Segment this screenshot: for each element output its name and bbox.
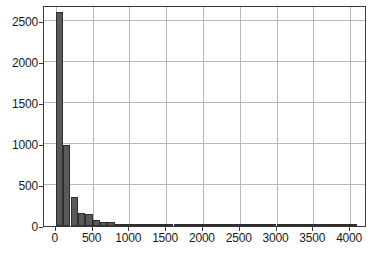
- histogram-figure: 05001000150020002500300035004000 0500100…: [0, 0, 377, 258]
- histogram-bar: [210, 224, 217, 226]
- histogram-bar: [254, 224, 261, 226]
- x-tick-label: 1000: [115, 231, 141, 245]
- y-tick: [39, 22, 43, 23]
- histogram-bar: [159, 224, 166, 226]
- histogram-bar: [335, 224, 342, 226]
- histogram-bar: [350, 224, 357, 226]
- histogram-bar: [78, 213, 85, 226]
- histogram-bar: [151, 224, 158, 226]
- histogram-bar: [56, 12, 63, 227]
- histogram-bar: [247, 224, 254, 226]
- x-tick-label: 2000: [189, 231, 215, 245]
- histogram-bar: [225, 224, 232, 226]
- histogram-bar: [181, 224, 188, 226]
- histogram-bar: [277, 224, 284, 226]
- histogram-bar: [269, 224, 276, 226]
- histogram-bar: [100, 222, 107, 227]
- x-tick-label: 3000: [263, 231, 289, 245]
- histogram-bar: [306, 224, 313, 226]
- histogram-bar: [196, 224, 203, 226]
- histogram-bar: [107, 222, 114, 226]
- histogram-bar: [188, 224, 195, 226]
- histogram-bar: [321, 224, 328, 226]
- x-tick-label: 500: [82, 231, 101, 245]
- histogram-bar: [262, 224, 269, 226]
- y-tick-label: 0: [32, 220, 38, 234]
- histogram-bar: [299, 224, 306, 226]
- x-tick-label: 3500: [299, 231, 325, 245]
- histogram-bar: [129, 224, 136, 226]
- x-tick-label: 2500: [226, 231, 252, 245]
- y-tick: [39, 145, 43, 146]
- y-tick: [39, 104, 43, 105]
- histogram-bar: [174, 224, 181, 226]
- histogram-bar: [240, 224, 247, 226]
- histogram-bar: [343, 224, 350, 226]
- histogram-bar: [284, 224, 291, 226]
- histogram-bar: [203, 224, 210, 226]
- y-tick: [39, 227, 43, 228]
- x-tick-label: 4000: [336, 231, 362, 245]
- x-tick-label: 1500: [152, 231, 178, 245]
- plot-area: [43, 6, 366, 227]
- histogram-bar: [122, 224, 129, 226]
- histogram-bar: [63, 145, 70, 226]
- y-tick-label: 1000: [12, 138, 38, 152]
- y-tick-label: 500: [19, 179, 38, 193]
- x-tick-label: 0: [52, 231, 58, 245]
- histogram-bar: [218, 224, 225, 226]
- y-tick-label: 2000: [12, 56, 38, 70]
- histogram-bar: [232, 224, 239, 226]
- y-tick-label: 2500: [12, 15, 38, 29]
- histogram-bar: [85, 214, 92, 226]
- y-tick-label: 1500: [12, 97, 38, 111]
- y-tick: [39, 186, 43, 187]
- histogram-bar: [328, 224, 335, 226]
- y-tick: [39, 63, 43, 64]
- histogram-bar: [166, 224, 173, 226]
- histogram-bar: [291, 224, 298, 226]
- histogram-bar: [144, 224, 151, 226]
- histogram-bar: [313, 224, 320, 226]
- histogram-bar: [71, 197, 78, 226]
- histogram-bar: [93, 220, 100, 227]
- histogram-bar: [137, 224, 144, 226]
- histogram-bars: [44, 7, 365, 226]
- histogram-bar: [115, 224, 122, 226]
